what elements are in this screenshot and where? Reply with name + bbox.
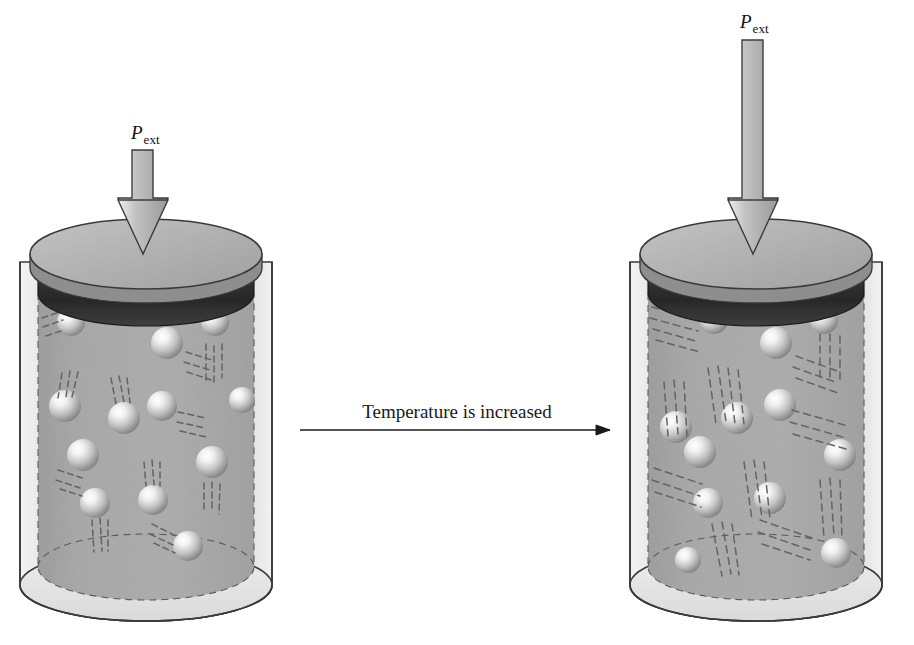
diagram-svg: Pext <box>0 0 914 645</box>
cylinder-right <box>630 200 882 621</box>
pressure-label-left: Pext <box>130 122 160 147</box>
transition-arrow-head <box>596 425 610 435</box>
pressure-symbol-left: P <box>130 122 143 143</box>
pressure-symbol-right: P <box>739 11 752 32</box>
cylinder-left <box>20 150 272 621</box>
pressure-subscript-right: ext <box>753 21 769 36</box>
panel-after: Pext <box>630 11 882 621</box>
pressure-label-right: Pext <box>739 11 769 36</box>
transition-annotation: Temperature is increased <box>300 401 610 435</box>
caption-label: Temperature is increased <box>362 401 552 422</box>
pressure-subscript-left: ext <box>144 132 160 147</box>
figure-canvas: Pext <box>0 0 914 645</box>
panel-before: Pext <box>20 122 272 621</box>
